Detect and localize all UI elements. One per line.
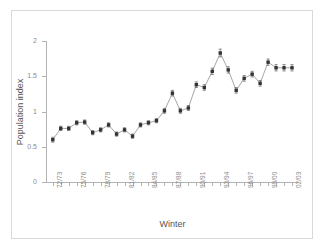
x-axis-tick-mark xyxy=(53,183,54,186)
data-point-marker xyxy=(163,109,166,112)
y-axis-tick-label: 0.5 xyxy=(27,142,37,151)
data-point-marker xyxy=(250,72,253,75)
y-axis-tick-label: 0 xyxy=(33,177,37,186)
y-axis-tick-mark xyxy=(42,182,46,183)
data-point-marker xyxy=(155,119,158,122)
x-axis-tick-mark xyxy=(93,183,94,186)
data-point-marker xyxy=(59,127,62,130)
x-axis-tick-mark xyxy=(188,183,189,186)
x-axis-tick-mark xyxy=(292,183,293,186)
x-axis-title: Winter xyxy=(46,219,299,229)
data-point-marker xyxy=(235,89,238,92)
data-point-marker xyxy=(139,123,142,126)
x-axis-tick-mark xyxy=(212,183,213,186)
data-point-marker xyxy=(274,66,277,69)
x-axis-tick-mark xyxy=(172,183,173,186)
data-point-marker xyxy=(242,77,245,80)
y-axis-tick-label: 1.5 xyxy=(27,71,37,80)
data-point-marker xyxy=(67,127,70,130)
x-axis-tick-mark xyxy=(164,183,165,186)
x-axis-tick-mark xyxy=(125,183,126,186)
x-axis-tick-mark xyxy=(101,183,102,186)
x-axis-tick-mark xyxy=(117,183,118,186)
y-axis-tick-label: 1 xyxy=(33,107,37,116)
data-point-marker xyxy=(107,123,110,126)
x-axis-tick-mark xyxy=(284,183,285,186)
data-point-marker xyxy=(83,120,86,123)
data-point-marker xyxy=(123,128,126,131)
x-axis-tick-mark xyxy=(196,183,197,186)
chart-figure: Population index Winter 00.511.52 72/737… xyxy=(0,0,324,249)
y-axis-tick-label: 2 xyxy=(33,36,37,45)
x-axis-tick-mark xyxy=(148,183,149,186)
series-line xyxy=(53,53,292,140)
x-axis-tick-mark xyxy=(260,183,261,186)
x-axis-tick-mark xyxy=(77,183,78,186)
data-point-marker xyxy=(227,68,230,71)
y-axis-tick: 2 xyxy=(0,41,46,42)
y-axis-tick: 1.5 xyxy=(0,76,46,77)
data-point-marker xyxy=(171,91,174,94)
x-axis-tick-mark xyxy=(220,183,221,186)
data-point-marker xyxy=(282,66,285,69)
data-point-marker xyxy=(195,83,198,86)
data-point-marker xyxy=(211,70,214,73)
data-point-marker xyxy=(51,138,54,141)
x-axis-tick-mark xyxy=(244,183,245,186)
data-point-marker xyxy=(179,109,182,112)
data-point-marker xyxy=(203,86,206,89)
data-point-marker xyxy=(99,128,102,131)
data-point-marker xyxy=(219,51,222,54)
data-point-marker xyxy=(147,121,150,124)
x-axis-tick-mark xyxy=(141,183,142,186)
data-point-marker xyxy=(75,121,78,124)
y-axis-tick: 0 xyxy=(0,182,46,183)
data-point-marker xyxy=(266,60,269,63)
y-axis-tick: 1 xyxy=(0,112,46,113)
y-axis-tick: 0.5 xyxy=(0,147,46,148)
x-axis-tick-mark xyxy=(236,183,237,186)
data-point-marker xyxy=(187,106,190,109)
data-point-marker xyxy=(131,134,134,137)
plot-area xyxy=(46,41,298,182)
data-point-marker xyxy=(115,132,118,135)
data-point-marker xyxy=(290,66,293,69)
x-axis-tick-mark xyxy=(268,183,269,186)
population-index-series xyxy=(46,41,298,182)
data-point-marker xyxy=(91,131,94,134)
x-axis-tick-mark xyxy=(69,183,70,186)
data-point-marker xyxy=(258,82,261,85)
